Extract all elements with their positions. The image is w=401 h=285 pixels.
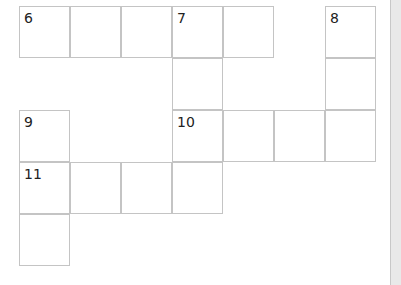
- crossword-cell[interactable]: [70, 6, 121, 58]
- crossword-cell[interactable]: [19, 214, 70, 266]
- crossword-cell[interactable]: 6: [19, 6, 70, 58]
- crossword-cell[interactable]: [325, 110, 376, 162]
- crossword-cell[interactable]: [172, 58, 223, 110]
- clue-number: 7: [177, 10, 186, 26]
- crossword-cell[interactable]: [70, 162, 121, 214]
- clue-number: 8: [330, 10, 339, 26]
- crossword-cell[interactable]: 9: [19, 110, 70, 162]
- crossword-cell[interactable]: 7: [172, 6, 223, 58]
- crossword-grid: 67891011: [0, 0, 390, 285]
- crossword-cell[interactable]: [325, 58, 376, 110]
- clue-number: 10: [177, 114, 195, 130]
- crossword-cell[interactable]: [121, 6, 172, 58]
- crossword-cell[interactable]: [274, 110, 325, 162]
- scrollbar[interactable]: [390, 0, 401, 285]
- clue-number: 9: [24, 114, 33, 130]
- crossword-cell[interactable]: 11: [19, 162, 70, 214]
- crossword-cell[interactable]: 10: [172, 110, 223, 162]
- crossword-cell[interactable]: [223, 110, 274, 162]
- crossword-cell[interactable]: [223, 6, 274, 58]
- crossword-cell[interactable]: [172, 162, 223, 214]
- clue-number: 11: [24, 166, 42, 182]
- crossword-cell[interactable]: 8: [325, 6, 376, 58]
- clue-number: 6: [24, 10, 33, 26]
- crossword-cell[interactable]: [121, 162, 172, 214]
